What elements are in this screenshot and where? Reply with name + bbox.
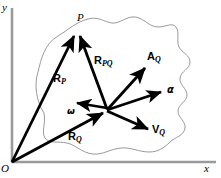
- vector-label-A-Q: AQ: [147, 51, 161, 64]
- vector-label-R-P: RP: [53, 73, 66, 86]
- vector-label-R-PQ-subscript: PQ: [102, 59, 113, 68]
- vector-diagram-figure: y x O P RP RQ RPQ ω α AQ VQ: [0, 0, 221, 178]
- vector-label-A-Q-subscript: Q: [155, 55, 161, 64]
- vector-label-R-Q-subscript: Q: [76, 135, 82, 144]
- vector-label-V-Q-subscript: Q: [159, 128, 165, 137]
- x-axis-label: x: [204, 163, 209, 174]
- origin-label: O: [1, 163, 9, 174]
- vector-R-PQ: [80, 36, 107, 109]
- vector-omega: [77, 103, 107, 108]
- vector-label-R-P-base: R: [53, 72, 61, 84]
- point-label-P: P: [77, 12, 84, 23]
- vector-R-Q: [12, 113, 103, 162]
- vector-label-V-Q: VQ: [152, 124, 165, 137]
- vector-label-alpha: α: [167, 85, 174, 95]
- y-axis-label: y: [2, 2, 7, 13]
- vector-label-R-Q-base: R: [68, 130, 76, 142]
- vector-label-R-PQ: RPQ: [94, 55, 113, 68]
- diagram-canvas: [0, 0, 221, 178]
- vector-label-R-Q: RQ: [68, 131, 82, 144]
- vector-label-A-Q-base: A: [147, 50, 155, 62]
- vector-label-omega: ω: [67, 107, 75, 116]
- vector-V-Q: [107, 111, 148, 129]
- vector-label-R-PQ-base: R: [94, 54, 102, 66]
- vector-label-R-P-subscript: P: [61, 77, 66, 86]
